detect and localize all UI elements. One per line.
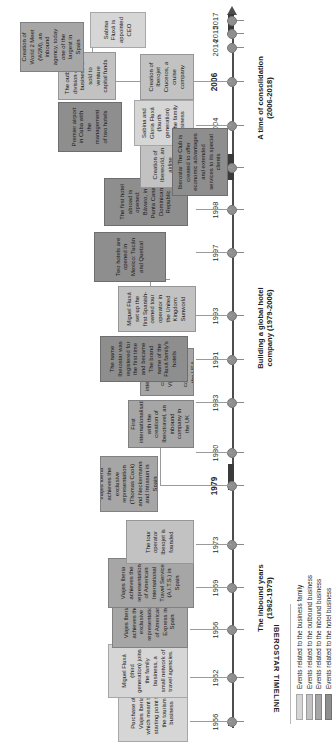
event-text: The first hotel abroad is opened: Bávaro… <box>119 183 173 221</box>
timeline-node-1980[interactable] <box>227 448 237 458</box>
event-text: Viajes Iberia achieves the representatio… <box>120 563 181 603</box>
legend-label-outbound: Events related to the outbound business <box>306 575 313 689</box>
title-divider <box>290 604 291 724</box>
event-text: Premier airport in Cuba with the managem… <box>71 107 109 147</box>
year-label-1991: 1991 <box>211 352 220 369</box>
event-box-1973-outbound[interactable]: The tour operator Iberojet is founded <box>126 520 194 564</box>
timeline-canvas: IBEROSTAR TIMELINE 195619621966196919731… <box>0 0 334 748</box>
year-label-1973: 1973 <box>211 537 220 554</box>
timeline-node-2003[interactable] <box>227 163 237 173</box>
connector <box>196 252 232 253</box>
timeline-node-1998[interactable] <box>227 205 237 215</box>
year-label-1979: 1979 <box>210 477 219 496</box>
timeline-node-2014[interactable] <box>227 43 237 53</box>
connector <box>196 359 232 360</box>
event-text: Miguel Fluxá (third generation) joins th… <box>121 649 175 693</box>
event-text: First internationalisation with the crea… <box>130 405 191 443</box>
event-text: The tour operator Iberojet is founded <box>145 525 176 559</box>
legend-item-outbound: Events related to the outbound business <box>306 575 313 720</box>
timeline-node-1956[interactable] <box>227 717 237 727</box>
event-box-1980-inbound[interactable]: First internationalisation with the crea… <box>128 400 194 448</box>
connector <box>190 721 232 722</box>
connector <box>196 544 232 545</box>
year-label-1998: 1998 <box>211 202 220 219</box>
legend-swatch-family <box>296 694 303 720</box>
page-title: IBEROSTAR TIMELINE <box>272 624 281 713</box>
event-text: Miguel Fluxá set up the first Spanish-ow… <box>126 291 187 327</box>
phase-label-0: The inbound years (1962-1979) <box>256 564 275 632</box>
year-label-1966: 1966 <box>211 622 220 639</box>
legend-item-hotel: Events related to the hotel business <box>325 575 332 720</box>
year-label-1962: 1962 <box>211 670 220 687</box>
connector <box>196 125 232 126</box>
year-label-1956: 1956 <box>211 714 220 731</box>
event-box-1969-inbound[interactable]: Viajes Iberia achieves the representatio… <box>108 558 194 608</box>
connector <box>196 452 232 453</box>
connector <box>196 209 232 210</box>
timeline-infographic: IBEROSTAR TIMELINE 195619621966196919731… <box>0 0 334 748</box>
year-label-2006: 2006 <box>210 73 219 92</box>
timeline-node-2006[interactable] <box>227 77 237 87</box>
connector <box>196 402 232 403</box>
event-box-2006-hotel[interactable]: Premier airport in Cuba with the managem… <box>58 102 122 152</box>
connector <box>196 587 232 588</box>
legend-item-inbound: Events related to the inbound business <box>315 575 322 720</box>
connector <box>190 677 232 678</box>
event-text: The name Iberostar was registered for th… <box>109 341 178 377</box>
event-text: Creation of Iberojet Cruceros, a cruise … <box>148 59 186 95</box>
event-box-2004-outbound[interactable]: Creation of Iberojet Cruceros, a cruise … <box>140 54 194 100</box>
event-text: Creation of World 2 Meet (W2M), an inbou… <box>21 27 82 67</box>
legend-item-family: Events related to the business family <box>296 575 303 720</box>
timeline-node-1991[interactable] <box>227 355 237 365</box>
timeline-node-2004[interactable] <box>227 121 237 131</box>
legend-label-family: Events related to the business family <box>296 585 303 689</box>
event-box-2015-inbound[interactable]: Creation of World 2 Meet (W2M), an inbou… <box>20 22 84 72</box>
timeline-node-1966[interactable] <box>227 625 237 635</box>
legend-swatch-outbound <box>306 694 313 720</box>
connector <box>190 629 232 630</box>
legend-label-hotel: Events related to the hotel business <box>325 588 332 689</box>
legend-swatch-inbound <box>315 694 322 720</box>
timeline-node-2017[interactable] <box>227 16 237 26</box>
event-box-1997-hotel[interactable]: Two hotels are opened in Mexico: Tucán a… <box>94 232 166 282</box>
event-text: Viajes Iberia achieves the exclusive rep… <box>100 461 158 507</box>
event-text: Two hotels are opened in Mexico: Tucán a… <box>115 237 146 277</box>
event-box-1979-inbound[interactable]: Viajes Iberia achieves the exclusive rep… <box>100 456 158 512</box>
year-label-2017: 2017 <box>211 13 220 30</box>
event-box-1962-family[interactable]: Miguel Fluxá (third generation) joins th… <box>108 644 188 698</box>
timeline-node-2015[interactable] <box>227 29 237 39</box>
event-text: Iberostar The Club is created to offer e… <box>177 133 223 191</box>
timeline-node-1962[interactable] <box>227 673 237 683</box>
timeline-node-1997[interactable] <box>227 248 237 258</box>
timeline-node-1983[interactable] <box>227 398 237 408</box>
year-label-1997: 1997 <box>211 245 220 262</box>
legend: Events related to the business familyEve… <box>296 575 332 720</box>
event-box-1991-hotel[interactable]: The name Iberostar was registered for th… <box>100 336 188 382</box>
phase-label-2: A time of consolidation (2006-2018) <box>256 56 275 140</box>
phase-label-1: Building a global hotel company (1979-20… <box>256 287 275 368</box>
year-label-1993: 1993 <box>211 308 220 325</box>
year-label-1969: 1969 <box>211 580 220 597</box>
year-label-1983: 1983 <box>211 395 220 412</box>
event-box-2014-hotel[interactable]: Iberostar The Club is created to offer e… <box>172 128 228 196</box>
year-label-1980: 1980 <box>211 445 220 462</box>
event-text: Sabina Fluxá is appointed CEO <box>103 17 134 43</box>
event-box-1993-outbound[interactable]: Miguel Fluxá set up the first Spanish-ow… <box>118 286 196 332</box>
connector <box>160 485 232 486</box>
legend-label-inbound: Events related to the inbound business <box>315 579 322 689</box>
timeline-node-1993[interactable] <box>227 311 237 321</box>
legend-swatch-hotel <box>325 694 332 720</box>
timeline-node-1979[interactable] <box>227 481 237 491</box>
event-box-2017-family[interactable]: Sabina Fluxá is appointed CEO <box>90 12 146 48</box>
timeline-node-1969[interactable] <box>227 583 237 593</box>
timeline-node-1973[interactable] <box>227 540 237 550</box>
